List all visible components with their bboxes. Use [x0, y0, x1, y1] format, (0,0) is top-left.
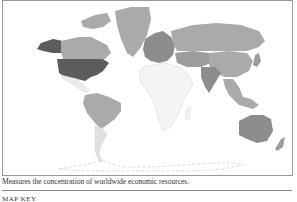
region-madagascar [185, 107, 191, 119]
region-antarctica [59, 161, 243, 171]
region-central-asia [175, 51, 211, 67]
region-alaska [37, 39, 63, 53]
world-map [2, 0, 293, 176]
region-brazil [83, 93, 121, 129]
region-canadian-arctic [81, 13, 111, 29]
region-canada [61, 37, 111, 59]
region-japan [253, 53, 261, 67]
region-africa [139, 63, 193, 131]
region-india [201, 67, 221, 93]
map-caption: Measures the concentration of worldwide … [2, 177, 189, 186]
region-australia [239, 115, 273, 143]
world-map-graphic [3, 1, 292, 175]
region-argentina [95, 125, 107, 161]
region-southeast-asia [223, 79, 259, 109]
divider [2, 190, 292, 191]
region-russia [171, 23, 265, 51]
map-key-heading: MAP KEY [2, 195, 37, 202]
region-new-zealand [275, 137, 285, 151]
